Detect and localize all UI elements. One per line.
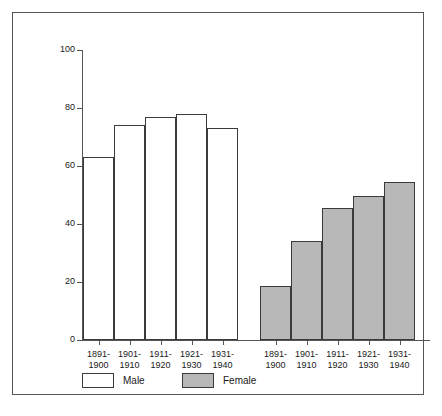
x-category-label-line2: 1940 (201, 360, 245, 371)
legend-swatch-male (82, 373, 114, 388)
x-axis-line (82, 340, 430, 341)
bar-female-3 (353, 196, 384, 340)
bar-female-0 (260, 286, 291, 340)
bar-female-1 (291, 241, 322, 340)
chart-frame-border: 100806040200 Percent 1891-19001901-19101… (12, 12, 424, 395)
legend-label: Male (123, 375, 145, 386)
y-tick-mark (77, 282, 82, 283)
y-tick-mark (77, 224, 82, 225)
plot-area: 100806040200 Percent 1891-19001901-19101… (82, 50, 430, 340)
y-tick-mark (77, 50, 82, 51)
x-category-label-line1: 1931- (201, 349, 245, 360)
y-tick-label: 0 (49, 335, 75, 344)
bar-male-3 (176, 114, 207, 340)
x-tick-mark (369, 341, 370, 345)
y-tick-mark (77, 340, 82, 341)
legend-label: Female (223, 375, 256, 386)
x-tick-mark (161, 341, 162, 345)
x-category-label-male-4: 1931-1940 (201, 349, 245, 371)
x-category-label-female-4: 1931-1940 (378, 349, 422, 371)
x-tick-mark (338, 341, 339, 345)
bar-female-2 (322, 208, 353, 340)
x-category-label-line1: 1931- (378, 349, 422, 360)
y-tick-mark (77, 166, 82, 167)
chart-figure: 100806040200 Percent 1891-19001901-19101… (0, 0, 442, 416)
bar-male-1 (114, 125, 145, 340)
x-tick-mark (130, 341, 131, 345)
bar-male-0 (83, 157, 114, 340)
y-tick-label: 40 (49, 219, 75, 228)
x-tick-mark (223, 341, 224, 345)
bar-male-2 (145, 117, 176, 340)
y-tick-label: 100 (49, 45, 75, 54)
y-tick-label: 60 (49, 161, 75, 170)
legend-item-male[interactable]: Male (82, 371, 145, 389)
legend-item-female[interactable]: Female (182, 371, 256, 389)
x-tick-mark (307, 341, 308, 345)
y-tick-mark (77, 108, 82, 109)
x-tick-mark (192, 341, 193, 345)
x-tick-mark (276, 341, 277, 345)
x-category-label-line2: 1940 (378, 360, 422, 371)
bar-male-4 (207, 128, 238, 340)
bar-female-4 (384, 182, 415, 340)
legend-swatch-female (182, 373, 214, 388)
y-tick-label: 20 (49, 277, 75, 286)
x-tick-mark (400, 341, 401, 345)
y-tick-label: 80 (49, 103, 75, 112)
x-tick-mark (99, 341, 100, 345)
